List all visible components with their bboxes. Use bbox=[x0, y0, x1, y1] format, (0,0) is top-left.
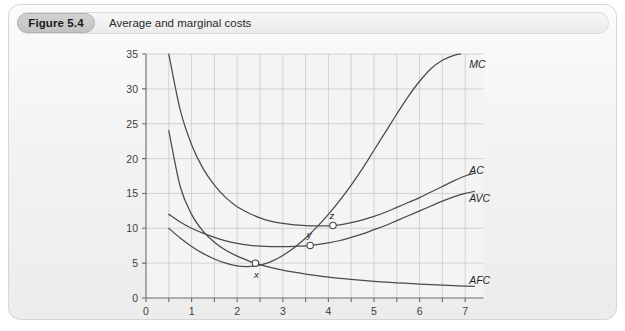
grid-lines bbox=[146, 54, 483, 298]
x-tick-1: 1 bbox=[189, 305, 195, 317]
x-tick-5: 5 bbox=[371, 305, 377, 317]
point-label-z: z bbox=[329, 210, 335, 221]
figure-header: Figure 5.4 Average and marginal costs bbox=[17, 12, 609, 34]
y-axis-tick-labels: 05101520253035 bbox=[126, 48, 138, 304]
y-tick-30: 30 bbox=[126, 83, 138, 95]
y-tick-25: 25 bbox=[126, 118, 138, 130]
point-marker-x bbox=[252, 260, 258, 266]
x-axis-tick-labels: 01234567 bbox=[143, 305, 468, 317]
y-tick-15: 15 bbox=[126, 187, 138, 199]
curve-label-afc: AFC bbox=[468, 274, 490, 286]
point-marker-y bbox=[307, 242, 313, 248]
y-tick-20: 20 bbox=[126, 153, 138, 165]
curve-label-mc: MC bbox=[469, 58, 486, 70]
figure-number-badge: Figure 5.4 bbox=[17, 13, 95, 33]
curve-label-avc: AVC bbox=[468, 192, 490, 204]
x-tick-2: 2 bbox=[234, 305, 240, 317]
point-marker-z bbox=[330, 222, 336, 228]
y-tick-35: 35 bbox=[126, 48, 138, 60]
figure-card: Figure 5.4 Average and marginal costs 05… bbox=[8, 4, 617, 320]
y-tick-5: 5 bbox=[132, 257, 138, 269]
figure-caption: Average and marginal costs bbox=[109, 17, 251, 29]
x-tick-4: 4 bbox=[325, 305, 331, 317]
x-tick-3: 3 bbox=[280, 305, 286, 317]
chart-plot-area: 05101520253035 01234567 MCACAVCAFC xyz bbox=[9, 35, 616, 319]
curve-label-ac: AC bbox=[468, 164, 484, 176]
cost-curves-chart: 05101520253035 01234567 MCACAVCAFC xyz bbox=[9, 35, 616, 319]
x-tick-6: 6 bbox=[417, 305, 423, 317]
x-tick-7: 7 bbox=[462, 305, 468, 317]
y-tick-0: 0 bbox=[132, 292, 138, 304]
x-tick-0: 0 bbox=[143, 305, 149, 317]
y-tick-10: 10 bbox=[126, 222, 138, 234]
